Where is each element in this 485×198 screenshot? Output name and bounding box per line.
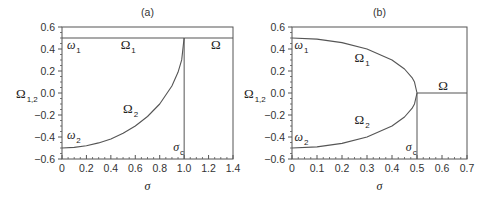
- x-tick-label: 0.1: [310, 162, 325, 174]
- x-tick-label: 0.2: [335, 162, 350, 174]
- y-tick-label: −0.2: [34, 109, 55, 121]
- x-tick-label: 0: [59, 162, 65, 174]
- x-tick-label: 1.2: [201, 162, 216, 174]
- y-tick-label: −0.4: [264, 131, 285, 143]
- omega-small-1-label: ω1: [67, 38, 81, 55]
- y-tick-label: 0.2: [270, 65, 285, 77]
- x-tick-label: 0.6: [435, 162, 450, 174]
- x-tick-label: 1.0: [177, 162, 192, 174]
- y-tick-label: 0.4: [40, 43, 55, 55]
- omega-label: Ω: [211, 37, 221, 52]
- y-tick-label: 0.2: [40, 65, 55, 77]
- x-axis-label: σ: [145, 179, 152, 193]
- x-axis-label: σ: [377, 179, 384, 193]
- chart-panel-a: (a)00.20.40.60.81.01.21.40.60.40.20.0−0.…: [16, 6, 240, 193]
- chart-title: (a): [141, 6, 154, 18]
- omega-2-label: Ω2: [355, 112, 371, 130]
- y-tick-label: −0.2: [264, 109, 285, 121]
- x-tick-label: 0.5: [410, 162, 425, 174]
- x-tick-label: 0.7: [460, 162, 475, 174]
- y-tick-label: −0.6: [34, 153, 55, 165]
- x-tick-label: 0.8: [152, 162, 167, 174]
- x-tick-label: 0.4: [104, 162, 119, 174]
- y-tick-label: 0.4: [270, 43, 285, 55]
- x-tick-label: 0.6: [128, 162, 143, 174]
- y-axis-label: Ω1,2: [16, 86, 38, 104]
- x-tick-label: 0: [289, 162, 295, 174]
- omega-2-label: Ω2: [123, 101, 139, 119]
- y-axis-label: Ω1,2: [244, 86, 266, 104]
- plot-frame: [62, 27, 233, 159]
- sigma-c-label: σc: [406, 140, 417, 157]
- y-tick-label: 0.6: [40, 21, 55, 33]
- figure: (a)00.20.40.60.81.01.21.40.60.40.20.0−0.…: [0, 0, 485, 198]
- y-tick-label: 0.6: [270, 21, 285, 33]
- x-tick-label: 0.2: [79, 162, 94, 174]
- x-tick-label: 1.4: [226, 162, 241, 174]
- chart-panel-b: (b)00.10.20.30.40.50.60.70.60.40.20.0−0.…: [244, 6, 474, 193]
- y-tick-label: 0.0: [40, 87, 55, 99]
- x-tick-label: 0.3: [360, 162, 375, 174]
- omega-1-label: Ω1: [121, 37, 137, 55]
- omega-label: Ω: [438, 78, 448, 93]
- y-tick-label: −0.4: [34, 131, 55, 143]
- y-tick-label: −0.6: [264, 153, 285, 165]
- omega-small-2-label: ω2: [295, 130, 309, 147]
- omega-small-1-label: ω1: [295, 38, 309, 55]
- y-tick-label: 0.0: [270, 87, 285, 99]
- x-tick-label: 0.4: [385, 162, 400, 174]
- chart-title: (b): [373, 6, 386, 18]
- omega-1-label: Ω1: [355, 50, 371, 68]
- omega-small-2-label: ω2: [67, 128, 81, 145]
- series-line-omega1: [292, 38, 417, 93]
- sigma-c-label: σc: [173, 140, 184, 157]
